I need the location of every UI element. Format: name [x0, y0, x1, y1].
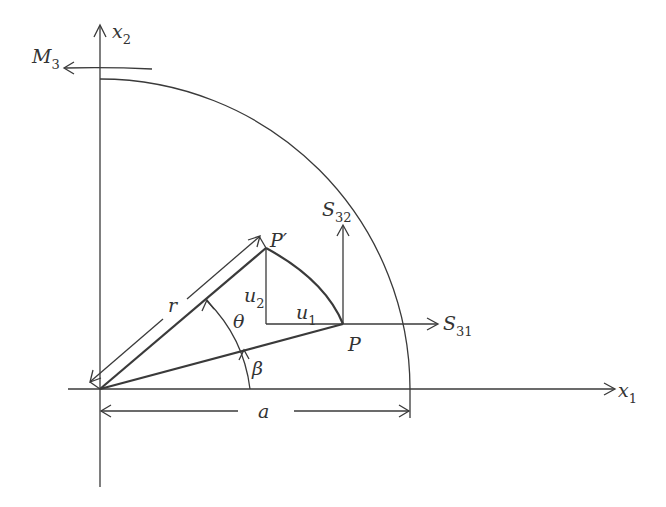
S32-vector: [337, 225, 349, 324]
a-dimension: [101, 405, 409, 417]
x2-axis: [94, 25, 106, 487]
torsion-diagram: x2 x1 M3 S32 S31 P′ P r θ β u2 u1 a: [0, 0, 666, 507]
label-P-prime: P′: [269, 229, 288, 251]
label-x1: x1: [618, 379, 637, 406]
label-theta: θ: [233, 310, 245, 332]
label-P: P: [347, 333, 362, 355]
S31-vector: [343, 318, 438, 330]
x1-axis: [68, 383, 615, 395]
label-a: a: [258, 400, 269, 422]
label-S31: S31: [443, 312, 473, 339]
label-beta: β: [251, 357, 263, 379]
diagram-canvas: x2 x1 M3 S32 S31 P′ P r θ β u2 u1 a: [0, 0, 666, 507]
label-x2: x2: [112, 20, 131, 47]
line-OP: [100, 324, 343, 389]
label-r: r: [168, 294, 179, 316]
label-u2: u2: [244, 284, 265, 311]
moment-arrow-M3: [64, 62, 152, 74]
label-M3: M3: [31, 45, 60, 72]
